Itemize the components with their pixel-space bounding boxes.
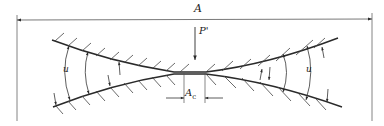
label-angle-right: u — [306, 65, 312, 74]
label-load: P' — [199, 26, 208, 36]
label-contact-area-sub: c — [192, 93, 196, 101]
dimension-line-a — [17, 19, 372, 20]
contact-diagram — [0, 0, 384, 126]
label-angle-left: u — [63, 65, 69, 74]
angle-u-right — [260, 46, 328, 102]
label-contact-area: Ac — [185, 88, 196, 101]
lower-surface — [53, 74, 342, 114]
dimension-a — [17, 13, 372, 121]
upper-hatching — [55, 33, 325, 72]
angle-u-left — [54, 46, 120, 105]
label-overall-dimension: A — [194, 3, 202, 14]
